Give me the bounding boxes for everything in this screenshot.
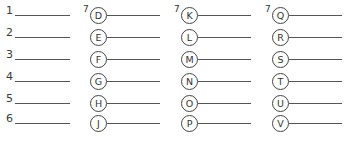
letter-answer-line[interactable]	[289, 59, 342, 60]
letter-answer-line[interactable]	[107, 59, 160, 60]
letter-circle[interactable]: T	[272, 73, 289, 90]
answer-blank-line[interactable]	[15, 15, 70, 16]
letter-answer-line[interactable]	[198, 103, 251, 104]
letter-answer-line[interactable]	[107, 15, 160, 16]
letter-answer-line[interactable]	[289, 123, 342, 124]
blank-number: 5	[6, 93, 13, 105]
letter-answer-line[interactable]	[198, 59, 251, 60]
answer-blank-line[interactable]	[15, 123, 70, 124]
letter-circle[interactable]: F	[90, 51, 107, 68]
letter-answer-line[interactable]	[107, 81, 160, 82]
blank-number: 6	[6, 113, 13, 125]
column-marker-seven: 7	[174, 4, 180, 14]
letter-circle[interactable]: N	[181, 73, 198, 90]
letter-circle[interactable]: V	[272, 115, 289, 132]
letter-circle[interactable]: Q	[272, 7, 289, 24]
letter-circle[interactable]: M	[181, 51, 198, 68]
letter-answer-line[interactable]	[198, 15, 251, 16]
letter-answer-line[interactable]	[289, 103, 342, 104]
letter-answer-line[interactable]	[198, 37, 251, 38]
letter-circle[interactable]: U	[272, 95, 289, 112]
letter-answer-line[interactable]	[198, 81, 251, 82]
letter-answer-line[interactable]	[107, 37, 160, 38]
letter-answer-line[interactable]	[289, 81, 342, 82]
blank-number: 2	[6, 27, 13, 39]
column-marker-seven: 7	[83, 4, 89, 14]
blank-number: 1	[6, 5, 13, 17]
letter-circle[interactable]: S	[272, 51, 289, 68]
letter-answer-line[interactable]	[198, 123, 251, 124]
letter-circle[interactable]: D	[90, 7, 107, 24]
letter-circle[interactable]: O	[181, 95, 198, 112]
letter-answer-line[interactable]	[289, 15, 342, 16]
letter-circle[interactable]: K	[181, 7, 198, 24]
letter-circle[interactable]: R	[272, 29, 289, 46]
answer-blank-line[interactable]	[15, 103, 70, 104]
letter-answer-line[interactable]	[107, 103, 160, 104]
blank-number: 4	[6, 71, 13, 83]
letter-answer-line[interactable]	[289, 37, 342, 38]
answer-blank-line[interactable]	[15, 59, 70, 60]
answer-blank-line[interactable]	[15, 37, 70, 38]
letter-answer-line[interactable]	[107, 123, 160, 124]
letter-circle[interactable]: L	[181, 29, 198, 46]
letter-circle[interactable]: P	[181, 115, 198, 132]
letter-circle[interactable]: J	[90, 115, 107, 132]
answer-blank-line[interactable]	[15, 81, 70, 82]
column-marker-seven: 7	[265, 4, 271, 14]
letter-circle[interactable]: E	[90, 29, 107, 46]
letter-circle[interactable]: H	[90, 95, 107, 112]
letter-circle[interactable]: G	[90, 73, 107, 90]
blank-number: 3	[6, 49, 13, 61]
